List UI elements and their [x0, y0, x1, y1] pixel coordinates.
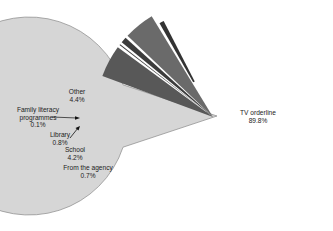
label-other-value: 4.4%: [69, 96, 84, 103]
label-family-literacy-value: 0.1%: [30, 121, 45, 128]
label-other-name: Other: [69, 88, 86, 95]
label-from-agency-value: 0.7%: [80, 172, 95, 179]
label-tv-orderline-value: 89.8%: [249, 117, 268, 124]
label-library-value: 0.8%: [52, 139, 67, 146]
pie-chart: TV orderline 89.8% Other 4.4% Family lit…: [0, 0, 333, 231]
label-school-name: School: [65, 146, 86, 153]
label-school-value: 4.2%: [67, 154, 82, 161]
label-tv-orderline-name: TV orderline: [240, 109, 276, 116]
